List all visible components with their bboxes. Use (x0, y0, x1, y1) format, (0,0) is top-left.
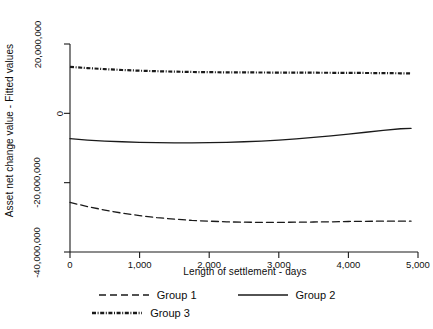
legend-row-secondary: Group 3 (0, 304, 433, 322)
legend-line-icon (237, 290, 289, 300)
chart-legend: Group 1Group 2 Group 3 (0, 286, 433, 329)
legend-line-icon (98, 290, 150, 300)
legend-entry-group-2[interactable]: Group 2 (237, 289, 336, 301)
legend-line-icon (91, 308, 143, 318)
plot-area (0, 0, 433, 329)
chart-figure: Asset net change value - Fitted values 2… (0, 0, 433, 329)
legend-label: Group 3 (150, 307, 190, 319)
legend-entry-group-3[interactable]: Group 3 (91, 307, 190, 319)
y-axis-ticks (64, 44, 70, 252)
legend-label: Group 2 (296, 289, 336, 301)
axes (64, 44, 418, 258)
legend-entry-group-1[interactable]: Group 1 (98, 289, 197, 301)
series-line-group-1 (70, 202, 411, 222)
series-line-group-2 (70, 128, 411, 142)
x-axis-ticks (70, 252, 418, 258)
x-axis-title: Length of settlement - days (70, 266, 420, 277)
legend-label: Group 1 (157, 289, 197, 301)
legend-row-primary: Group 1Group 2 (0, 286, 433, 304)
series-line-group-3 (70, 67, 411, 74)
data-series-group (70, 67, 411, 222)
